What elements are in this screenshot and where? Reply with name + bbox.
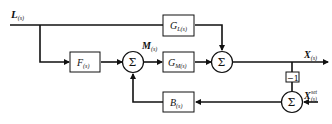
- block-gm: GM(s): [163, 52, 194, 72]
- sum1-symbol: Σ: [129, 56, 137, 69]
- block-diagram: GL(s) F(s) GM(s) B(s) −1 Σ Σ Σ L(s) M(s)…: [0, 0, 332, 124]
- summer-2: Σ: [212, 52, 233, 73]
- svg-text:set: set: [311, 89, 318, 95]
- gm-sub-label: M(s): [174, 63, 186, 70]
- gl-sub-label: L(s): [176, 26, 187, 33]
- block-gl: GL(s): [163, 15, 194, 36]
- manipulated-signal-label: M(s): [141, 40, 157, 53]
- b-sub-label: (s): [176, 103, 182, 110]
- block-f: F(s): [70, 52, 100, 72]
- summer-1: Σ: [123, 52, 144, 73]
- sum2-symbol: Σ: [218, 56, 226, 69]
- svg-text:X: X: [303, 90, 311, 101]
- load-signal-label: L(s): [10, 8, 24, 22]
- svg-text:(s): (s): [311, 96, 317, 103]
- summer-3: Σ: [282, 92, 303, 113]
- wire-b-to-sum1: [133, 74, 163, 102]
- neg-label: −1: [287, 74, 299, 83]
- f-sub-label: (s): [83, 63, 89, 70]
- block-b: B(s): [163, 92, 194, 112]
- wire-gl-to-sum2: [195, 25, 222, 50]
- gl-main-label: G: [170, 20, 177, 31]
- setpoint-signal-label: X set (s): [303, 89, 318, 103]
- sum3-symbol: Σ: [288, 96, 296, 109]
- block-neg: −1: [286, 72, 299, 83]
- wire-load-to-f: [40, 25, 69, 62]
- output-signal-label: X(s): [303, 49, 317, 62]
- gm-main-label: G: [168, 57, 175, 68]
